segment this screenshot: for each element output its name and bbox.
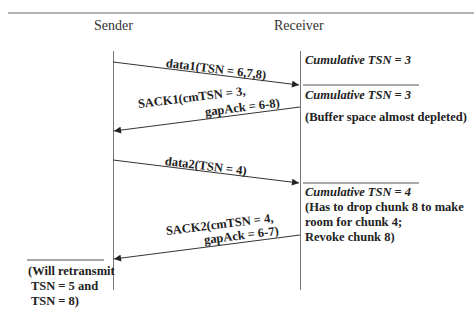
receiver-note-2-cumulative: Cumulative TSN = 3 <box>305 88 411 103</box>
receiver-note-3-line3: Revoke chunk 8) <box>305 230 395 245</box>
receiver-note-3-line2: room for chunk 4; <box>305 215 402 230</box>
sender-header: Sender <box>94 18 133 34</box>
receiver-note-3-line1: (Has to drop chunk 8 to make <box>305 200 464 215</box>
receiver-note-1-cumulative: Cumulative TSN = 3 <box>305 53 411 68</box>
sender-note-line2: TSN = 5 and <box>28 279 98 294</box>
sender-note-line3: TSN = 8) <box>28 294 79 309</box>
receiver-header: Receiver <box>274 18 324 34</box>
sender-note-line1: (Will retransmit <box>28 264 115 279</box>
receiver-note-2-text: (Buffer space almost depleted) <box>305 110 467 125</box>
receiver-note-3-cumulative: Cumulative TSN = 4 <box>305 185 411 200</box>
